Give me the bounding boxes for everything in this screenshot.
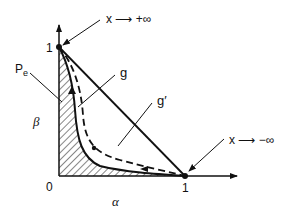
diagram-canvas — [0, 0, 287, 211]
annotation-x-plus-infinity: x ⟶ +∞ — [106, 13, 151, 25]
g-prime-label: g′ — [157, 94, 167, 107]
point-1-0 — [182, 173, 188, 179]
point-0-1 — [56, 44, 62, 50]
origin-label: 0 — [46, 181, 53, 193]
pe-label: Pe — [15, 63, 28, 78]
y-axis-label: β — [33, 115, 39, 128]
leader-pe — [30, 73, 62, 102]
pe-label-main: P — [15, 62, 23, 76]
leader-g-prime — [118, 103, 152, 146]
x-tick-1: 1 — [182, 182, 189, 194]
pe-label-sub: e — [23, 68, 28, 78]
leader-g — [78, 75, 115, 107]
curve-g-arrow-left — [140, 166, 148, 172]
y-tick-1: 1 — [46, 42, 53, 54]
g-label: g — [120, 66, 127, 79]
x-axis-label: α — [112, 195, 119, 208]
leader-bottom — [189, 139, 224, 171]
leader-top — [63, 20, 100, 45]
curve-g-point — [92, 146, 96, 150]
annotation-x-minus-infinity: x ⟶ −∞ — [229, 134, 274, 146]
